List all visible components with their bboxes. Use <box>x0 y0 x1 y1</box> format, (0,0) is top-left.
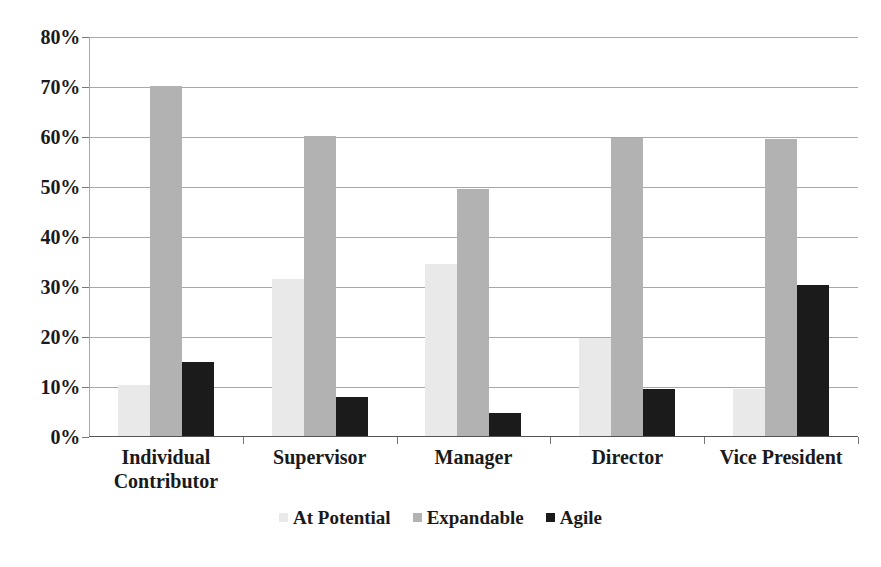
bar-group <box>550 36 704 436</box>
bar <box>643 389 675 437</box>
y-tick-mark <box>82 287 89 288</box>
x-tick-mark <box>704 437 705 444</box>
y-tick-label: 40% <box>0 227 80 247</box>
y-tick-mark <box>82 437 89 438</box>
x-category-label-line: Contributor <box>89 470 243 494</box>
y-tick-mark <box>82 187 89 188</box>
bar <box>489 413 521 436</box>
legend-label: Agile <box>560 508 602 527</box>
bar <box>304 136 336 436</box>
y-tick-label: 50% <box>0 177 80 197</box>
x-category-label-line: Individual <box>89 446 243 470</box>
legend-swatch-icon <box>279 513 288 522</box>
legend-label: Expandable <box>427 508 524 527</box>
y-tick-label: 80% <box>0 27 80 47</box>
bar <box>425 264 457 437</box>
y-tick-label: 70% <box>0 77 80 97</box>
bar <box>118 385 150 436</box>
bar-chart: 80%70%60%50%40%30%20%10%0% IndividualCon… <box>0 0 881 567</box>
x-category-label: IndividualContributor <box>89 446 243 493</box>
x-category-label-line: Manager <box>397 446 551 470</box>
x-tick-mark <box>397 437 398 444</box>
bar <box>457 189 489 437</box>
y-tick-mark <box>82 337 89 338</box>
y-tick-mark <box>82 37 89 38</box>
bar-group <box>397 36 551 436</box>
bar-group <box>704 36 858 436</box>
y-tick-mark <box>82 137 89 138</box>
y-tick-mark <box>82 237 89 238</box>
bar-group <box>243 36 397 436</box>
x-category-label: Vice President <box>704 446 858 470</box>
bar <box>336 397 368 437</box>
bar <box>150 86 182 436</box>
bar <box>733 389 765 437</box>
legend-item[interactable]: At Potential <box>279 508 391 527</box>
x-axis-line <box>89 436 858 437</box>
y-tick-label: 10% <box>0 377 80 397</box>
x-tick-mark <box>243 437 244 444</box>
bar <box>182 362 214 437</box>
y-tick-label: 20% <box>0 327 80 347</box>
x-tick-mark <box>858 437 859 444</box>
y-axis: 80%70%60%50%40%30%20%10%0% <box>0 0 80 567</box>
x-tick-mark <box>550 437 551 444</box>
bar <box>797 285 829 437</box>
x-category-label-line: Director <box>550 446 704 470</box>
y-tick-mark <box>82 87 89 88</box>
legend-swatch-icon <box>413 513 422 522</box>
legend-item[interactable]: Expandable <box>413 508 524 527</box>
bar-group <box>89 36 243 436</box>
plot-area <box>89 37 858 437</box>
y-tick-label: 30% <box>0 277 80 297</box>
x-category-label-line: Supervisor <box>243 446 397 470</box>
x-category-label: Manager <box>397 446 551 470</box>
legend-swatch-icon <box>546 513 555 522</box>
x-category-label: Supervisor <box>243 446 397 470</box>
x-category-label-line: Vice President <box>704 446 858 470</box>
bar <box>272 279 304 437</box>
x-axis-labels: IndividualContributorSupervisorManagerDi… <box>89 446 858 506</box>
y-tick-label: 0% <box>0 427 80 447</box>
y-tick-mark <box>82 387 89 388</box>
x-category-label: Director <box>550 446 704 470</box>
y-tick-label: 60% <box>0 127 80 147</box>
legend-item[interactable]: Agile <box>546 508 602 527</box>
bar <box>765 139 797 437</box>
bar <box>579 338 611 436</box>
legend-label: At Potential <box>293 508 391 527</box>
bar <box>611 138 643 436</box>
chart-legend: At PotentialExpandableAgile <box>0 508 881 527</box>
